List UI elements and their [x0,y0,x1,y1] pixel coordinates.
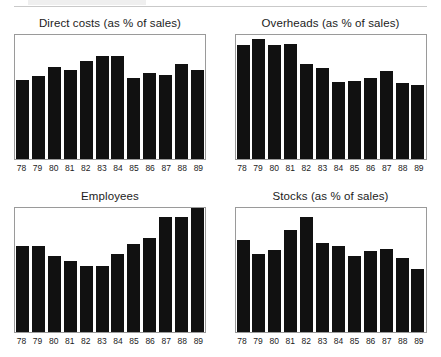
plot-area-direct-costs [14,34,206,160]
bar [111,56,124,159]
chart-title-stocks: Stocks (as % of sales) [220,189,441,203]
bar [300,217,313,332]
x-tick-label: 81 [63,336,76,346]
bar [159,217,172,332]
bar [364,78,377,159]
bar [396,83,409,159]
x-tick-label: 80 [47,163,60,173]
x-tick-label: 84 [332,336,345,346]
plot-area-overheads [235,34,427,160]
bar [284,44,297,159]
bar [32,246,45,332]
bar [316,68,329,159]
chart-panel-overheads: Overheads (as % of sales) 78798081828384… [220,10,441,183]
bar [268,250,281,332]
bar [175,217,188,332]
bar [348,256,361,332]
x-tick-label: 78 [15,163,28,173]
x-tick-label: 78 [236,336,249,346]
x-tick-label: 83 [95,163,108,173]
bar [380,71,393,159]
bar [411,85,424,159]
bar [252,254,265,332]
bar [364,251,377,332]
bar-series-stocks [236,208,426,332]
x-tick-label: 78 [15,336,28,346]
bar [396,258,409,332]
x-axis-labels-stocks: 787980818283848586878889 [235,336,427,346]
bar [64,261,77,332]
bar [96,266,109,332]
bar [300,64,313,159]
bar [237,240,250,332]
bar [48,256,61,332]
chart-title-direct-costs: Direct costs (as % of sales) [0,16,220,30]
bar [284,230,297,332]
x-tick-label: 81 [284,336,297,346]
x-tick-label: 80 [47,336,60,346]
bar [159,75,172,159]
x-tick-label: 85 [128,336,141,346]
x-tick-label: 78 [236,163,249,173]
bar [32,76,45,159]
bar [127,78,140,159]
x-tick-label: 86 [144,336,157,346]
bar [80,61,93,159]
x-tick-label: 80 [268,163,281,173]
x-tick-label: 82 [79,336,92,346]
x-tick-label: 87 [380,336,393,346]
chart-panel-stocks: Stocks (as % of sales) 78798081828384858… [220,183,441,357]
bar [175,64,188,159]
chart-title-employees: Employees [0,189,220,203]
x-tick-label: 79 [31,336,44,346]
x-tick-label: 83 [316,163,329,173]
bar-series-direct-costs [15,35,205,159]
x-axis-labels-employees: 787980818283848586878889 [14,336,206,346]
bar [80,266,93,332]
bar [332,82,345,159]
x-tick-label: 83 [95,336,108,346]
x-tick-label: 79 [252,336,265,346]
x-tick-label: 86 [364,336,377,346]
bar [191,70,204,159]
x-axis-labels-direct-costs: 787980818283848586878889 [14,163,206,173]
bar [96,56,109,159]
x-tick-label: 84 [111,163,124,173]
x-tick-label: 87 [160,336,173,346]
chart-panel-direct-costs: Direct costs (as % of sales) 78798081828… [0,10,220,183]
x-tick-label: 82 [79,163,92,173]
x-tick-label: 82 [300,336,313,346]
x-tick-label: 87 [160,163,173,173]
bar [237,45,250,159]
x-tick-label: 84 [111,336,124,346]
chart-panel-employees: Employees 787980818283848586878889 [0,183,220,357]
x-tick-label: 85 [128,163,141,173]
bar [380,249,393,332]
bar [348,81,361,159]
x-tick-label: 81 [63,163,76,173]
chart-grid: Direct costs (as % of sales) 78798081828… [0,10,441,357]
x-tick-label: 84 [332,163,345,173]
bar [332,246,345,332]
header-divider-rule [14,6,427,7]
x-tick-label: 88 [396,163,409,173]
x-tick-label: 80 [268,336,281,346]
plot-area-employees [14,207,206,333]
bar-series-employees [15,208,205,332]
x-tick-label: 86 [144,163,157,173]
x-tick-label: 83 [316,336,329,346]
x-tick-label: 89 [412,336,425,346]
bar [411,269,424,332]
x-tick-label: 88 [396,336,409,346]
x-tick-label: 85 [348,336,361,346]
x-tick-label: 88 [176,336,189,346]
chart-title-overheads: Overheads (as % of sales) [220,16,441,30]
bar [191,208,204,332]
x-tick-label: 79 [252,163,265,173]
x-tick-label: 82 [300,163,313,173]
bar [16,246,29,332]
x-tick-label: 79 [31,163,44,173]
bar [48,67,61,159]
x-axis-labels-overheads: 787980818283848586878889 [235,163,427,173]
x-tick-label: 88 [176,163,189,173]
